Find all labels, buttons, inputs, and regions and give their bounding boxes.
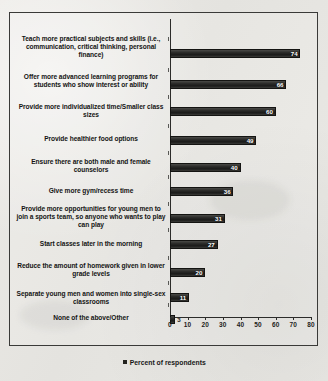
- bar: [170, 80, 286, 89]
- x-axis-tick: [223, 317, 224, 320]
- x-axis-tick: [293, 317, 294, 320]
- x-axis-tick: [311, 317, 312, 320]
- category-label: Give more gym/recess time: [16, 187, 166, 195]
- bar-value-label: 20: [196, 268, 203, 277]
- category-label: None of the above/Other: [16, 314, 166, 322]
- x-axis-tick-label: 30: [219, 321, 227, 328]
- x-axis-tick-label: 70: [290, 321, 298, 328]
- category-label: Reduce the amount of homework given in l…: [16, 262, 166, 278]
- x-axis-tick-label: 40: [237, 321, 245, 328]
- bar-value-label: 49: [247, 136, 254, 145]
- x-axis-tick: [188, 317, 189, 320]
- y-axis-tick: [168, 228, 169, 232]
- x-axis-tick-label: 80: [307, 321, 315, 328]
- legend-label: Percent of respondents: [130, 359, 206, 366]
- x-axis-tick: [276, 317, 277, 320]
- category-label: Provide more opportunities for young men…: [16, 205, 166, 230]
- category-label: Teach more practical subjects and skills…: [16, 35, 166, 60]
- bar-value-label: 11: [180, 293, 187, 302]
- y-axis-tick: [168, 256, 169, 260]
- bar-value-label: 40: [231, 163, 238, 172]
- chart-legend: Percent of respondents: [10, 359, 319, 366]
- y-axis-tick: [168, 281, 169, 285]
- y-axis-tick: [168, 37, 169, 41]
- bar-value-label: 36: [224, 187, 231, 196]
- x-axis-tick: [170, 317, 171, 320]
- y-axis-tick: [168, 151, 169, 155]
- category-label: Separate young men and women into single…: [16, 290, 166, 306]
- x-axis-tick-label: 60: [272, 321, 280, 328]
- category-label: Ensure there are both male and female co…: [16, 158, 166, 174]
- bar-value-label: 27: [208, 240, 215, 249]
- y-axis-tick: [168, 124, 169, 128]
- bar-value-label: 3: [177, 315, 180, 324]
- category-label: Provide more individualized time/Smaller…: [16, 103, 166, 119]
- x-axis-tick: [241, 317, 242, 320]
- bar: [170, 107, 276, 116]
- category-label: Provide healthier food options: [16, 135, 166, 143]
- bar-value-label: 60: [266, 107, 273, 116]
- x-axis-tick-label: 0: [168, 321, 172, 328]
- legend-swatch-icon: [123, 360, 127, 364]
- x-axis-tick-label: 10: [184, 321, 192, 328]
- x-axis-tick: [205, 317, 206, 320]
- x-axis-tick-label: 20: [201, 321, 209, 328]
- x-axis-tick: [258, 317, 259, 320]
- bar-value-label: 66: [277, 80, 284, 89]
- category-label: Start classes later in the morning: [16, 240, 166, 248]
- y-axis-tick: [168, 303, 169, 307]
- y-axis-tick: [168, 202, 169, 206]
- category-label: Offer more advanced learning programs fo…: [16, 73, 166, 89]
- x-axis-tick-label: 50: [254, 321, 262, 328]
- bar-value-label: 74: [291, 49, 298, 58]
- bar: [170, 136, 256, 145]
- y-axis-tick: [168, 68, 169, 72]
- y-axis-tick: [168, 175, 169, 179]
- bar: [170, 49, 300, 58]
- bar-value-label: 31: [215, 214, 222, 223]
- bar-chart-plot-area: 746660494036312720113 Teach more practic…: [10, 13, 319, 347]
- y-axis-tick: [168, 95, 169, 99]
- chart-frame: 746660494036312720113 Teach more practic…: [9, 12, 318, 346]
